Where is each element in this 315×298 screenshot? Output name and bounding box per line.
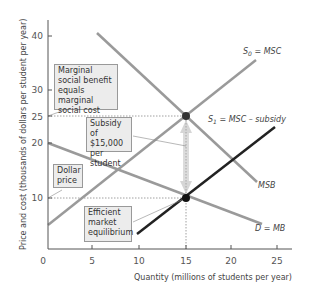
label-s0: S0 = MSC: [243, 47, 282, 57]
label-msb: MSB: [258, 181, 275, 190]
annotation-dollar-price: Dollar price: [53, 164, 83, 188]
y-tick-25: 25: [32, 112, 43, 122]
x-axis-title: Quantity (millions of students per year): [134, 273, 292, 282]
point-equilibrium: [182, 194, 190, 202]
pointer-price: [48, 190, 62, 198]
x-tick-10: 10: [133, 256, 145, 266]
x-ticks: [92, 245, 277, 249]
label-d-mb: D = MB: [255, 224, 285, 233]
x-tick-20: 20: [225, 256, 237, 266]
y-tick-30: 30: [32, 85, 44, 95]
pointer-eq: [133, 198, 186, 222]
y-tick-10: 10: [32, 193, 44, 203]
x-tick-5: 5: [89, 256, 95, 266]
x-tick-0: 0: [40, 256, 46, 266]
subsidy-arrow: [180, 120, 192, 194]
x-tick-15: 15: [180, 256, 191, 266]
chart-canvas: 40 30 25 20 10 0 5 10 15 20 25 Quantity …: [0, 0, 315, 298]
annotation-msb-equals-msc: Marginal social benefit equals marginal …: [54, 64, 118, 110]
y-ticks: [48, 36, 52, 198]
label-s1: S1 = MSC – subsidy: [208, 115, 286, 125]
point-msb-msc: [182, 112, 190, 120]
annotation-efficient-equilibrium: Efficient market equilibrium: [84, 206, 132, 242]
x-tick-25: 25: [271, 256, 282, 266]
y-axis-title: Price and cost (thousands of dollars per…: [19, 19, 28, 250]
y-tick-20: 20: [32, 138, 44, 148]
annotation-subsidy: Subsidy of $15,000 per student: [86, 117, 132, 152]
y-tick-40: 40: [32, 31, 44, 41]
